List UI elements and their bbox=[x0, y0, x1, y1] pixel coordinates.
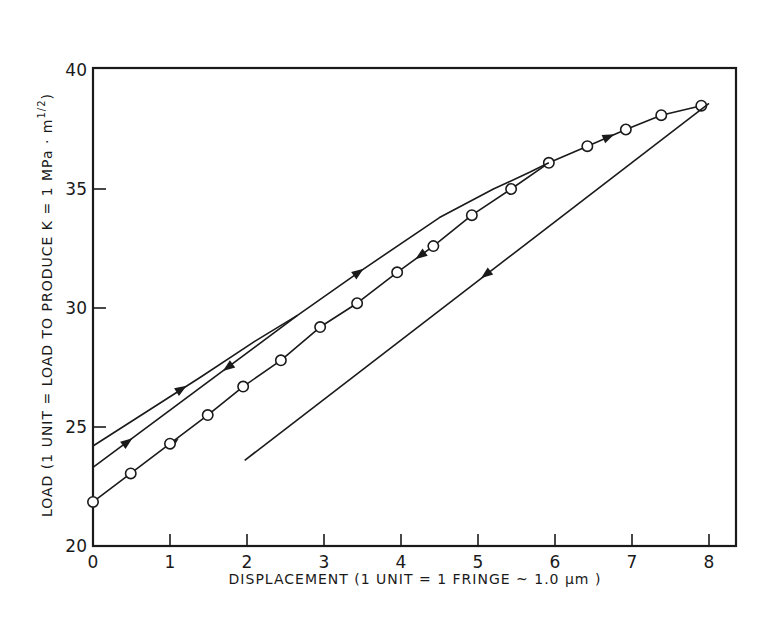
data-point-marker bbox=[238, 381, 248, 391]
series-middle-straight-line bbox=[93, 315, 298, 467]
data-point-marker bbox=[621, 124, 631, 134]
data-point-marker bbox=[88, 497, 98, 507]
y-tick-label: 40 bbox=[65, 60, 87, 80]
x-tick-label: 0 bbox=[88, 552, 99, 572]
series-lower-unloading-line bbox=[245, 103, 709, 460]
y-axis-label-group: LOAD (1 UNIT = LOAD TO PRODUCE K = 1 MPa… bbox=[36, 93, 55, 517]
data-point-marker bbox=[203, 410, 213, 420]
x-axis-ticks: 012345678 bbox=[88, 534, 715, 572]
y-tick-label: 35 bbox=[65, 179, 87, 199]
y-tick-label: 30 bbox=[65, 298, 87, 318]
direction-arrow-icon bbox=[120, 435, 135, 449]
data-point-marker bbox=[165, 438, 175, 448]
series-upper-loading-curve bbox=[93, 163, 549, 446]
data-point-marker bbox=[352, 298, 362, 308]
x-tick-label: 6 bbox=[550, 552, 561, 572]
direction-arrow-icon bbox=[413, 248, 428, 262]
series-load-unload-cycle-with-circle-data-points bbox=[88, 101, 707, 508]
data-point-marker bbox=[276, 355, 286, 365]
data-point-marker bbox=[467, 210, 477, 220]
direction-arrow-icon bbox=[174, 382, 189, 396]
series-line bbox=[245, 103, 709, 460]
series-line bbox=[93, 106, 701, 502]
x-tick-label: 8 bbox=[704, 552, 715, 572]
x-tick-label: 5 bbox=[473, 552, 484, 572]
direction-arrow-icon bbox=[602, 130, 617, 143]
y-axis-label-exponent: 1/2 bbox=[36, 99, 47, 118]
data-point-marker bbox=[506, 184, 516, 194]
data-point-marker bbox=[428, 241, 438, 251]
y-axis-label: LOAD (1 UNIT = LOAD TO PRODUCE K = 1 MPa… bbox=[36, 93, 55, 517]
series-line bbox=[93, 163, 549, 446]
data-point-marker bbox=[656, 110, 666, 120]
plot-frame bbox=[93, 68, 736, 546]
y-tick-label: 20 bbox=[65, 536, 87, 556]
chart: 012345678 2025303540 DISPLACEMENT (1 UNI… bbox=[0, 0, 762, 619]
x-tick-label: 3 bbox=[319, 552, 330, 572]
data-point-marker bbox=[126, 468, 136, 478]
data-point-marker bbox=[315, 322, 325, 332]
data-point-marker bbox=[582, 141, 592, 151]
x-tick-label: 1 bbox=[165, 552, 176, 572]
direction-arrow-icon bbox=[351, 265, 366, 279]
x-tick-label: 4 bbox=[396, 552, 407, 572]
y-axis-label-close: ) bbox=[39, 93, 55, 99]
y-axis-label-main: LOAD (1 UNIT = LOAD TO PRODUCE K = 1 MPa… bbox=[39, 119, 55, 518]
data-point-marker bbox=[392, 267, 402, 277]
x-tick-label: 7 bbox=[627, 552, 638, 572]
x-axis-label: DISPLACEMENT (1 UNIT = 1 FRINGE ~ 1.0 μm… bbox=[229, 571, 602, 587]
data-series bbox=[88, 101, 709, 508]
x-tick-label: 2 bbox=[242, 552, 253, 572]
y-axis-ticks: 2025303540 bbox=[65, 60, 106, 556]
y-tick-label: 25 bbox=[65, 417, 87, 437]
